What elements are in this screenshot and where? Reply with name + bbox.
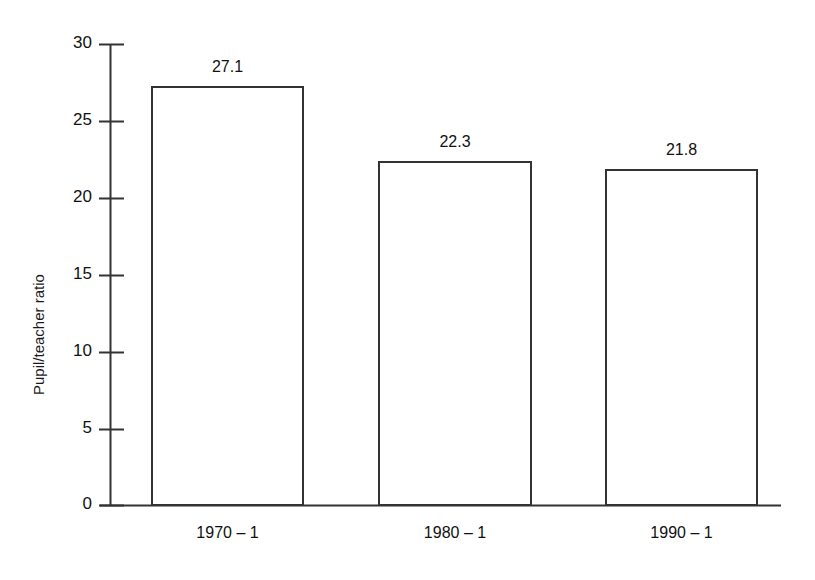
bar-1990-1 <box>606 170 757 505</box>
y-tick-label-25: 25 <box>52 110 92 130</box>
x-axis-label-1980-1: 1980 – 1 <box>379 524 531 542</box>
y-tick-label-10: 10 <box>52 341 92 361</box>
y-tick-label-5: 5 <box>52 418 92 438</box>
bar-chart: Pupil/teacher ratio 30 25 20 15 10 5 0 2… <box>0 0 815 580</box>
bar-1980-1 <box>379 162 531 505</box>
plot-area <box>0 0 815 580</box>
bar-1970-1 <box>152 87 303 505</box>
x-axis-label-1970-1: 1970 – 1 <box>152 524 303 542</box>
x-axis-label-1990-1: 1990 – 1 <box>606 524 757 542</box>
y-tick-label-15: 15 <box>52 264 92 284</box>
bar-value-label-1980-1: 22.3 <box>379 133 531 151</box>
bar-value-label-1990-1: 21.8 <box>606 141 757 159</box>
y-tick-label-30: 30 <box>52 33 92 53</box>
bar-value-label-1970-1: 27.1 <box>152 58 303 76</box>
y-tick-label-0: 0 <box>52 494 92 514</box>
y-tick-label-20: 20 <box>52 187 92 207</box>
